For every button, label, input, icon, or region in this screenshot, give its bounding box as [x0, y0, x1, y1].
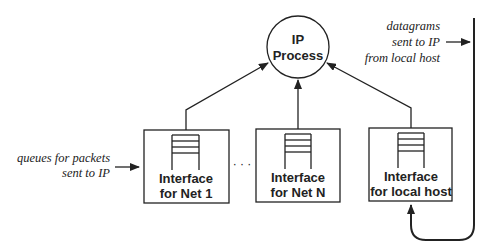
interface-label-2: for Net 1 [160, 186, 213, 201]
ip-process-diagram: IP Process Interface for Net 1 Interface… [0, 0, 502, 251]
interface-label-1: Interface [159, 171, 213, 186]
local-host-annotation: datagrams sent to IP from local host [365, 19, 470, 65]
ip-process-label-2: Process [273, 48, 324, 63]
queues-annotation: queues for packets sent to IP [17, 151, 139, 180]
ellipsis: · · · [233, 157, 252, 171]
interface-label-2: for Net N [271, 185, 326, 200]
local-annotation-line-1: datagrams [387, 19, 441, 33]
queues-annotation-line-1: queues for packets [17, 151, 110, 165]
interface-label-2: for local host [370, 184, 452, 199]
interface-net-1: Interface for Net 1 [144, 130, 229, 203]
queues-annotation-line-2: sent to IP [62, 166, 110, 180]
local-annotation-line-3: from local host [365, 51, 441, 65]
ip-process-node: IP Process [267, 16, 329, 78]
interface-label-1: Interface [271, 170, 325, 185]
ip-process-label-1: IP [292, 32, 305, 47]
interface-label-1: Interface [384, 169, 438, 184]
local-annotation-line-2: sent to IP [392, 35, 440, 49]
interface-net-n: Interface for Net N [256, 129, 340, 202]
interface-local-host: Interface for local host [369, 128, 452, 201]
